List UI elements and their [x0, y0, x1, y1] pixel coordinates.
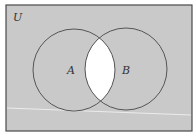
venn-diagram: U A B — [0, 0, 196, 134]
set-a-label: A — [66, 64, 75, 77]
set-b-label: B — [121, 64, 130, 77]
universe-label: U — [13, 11, 23, 24]
